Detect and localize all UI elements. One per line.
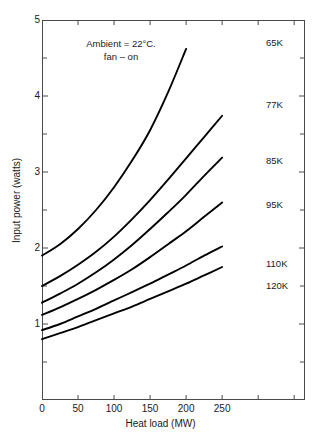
x-tick-label-200: 200 [178,403,195,414]
series-label-77K: 77K [266,100,283,110]
series-label-85K: 85K [266,156,283,166]
curve-65K [42,49,186,256]
x-tick-label-50: 50 [72,403,83,414]
curve-85K [42,158,222,303]
x-tick-label-100: 100 [106,403,123,414]
y-tick-label-4: 4 [10,91,40,101]
chart-canvas [0,0,321,439]
x-tick-label-150: 150 [142,403,159,414]
annotation-line-ambient: Ambient = 22°C. [62,37,180,50]
series-curves [42,49,222,339]
series-label-95K: 95K [266,200,283,210]
y-tick-label-5: 5 [10,15,40,25]
x-axis-title: Heat load (MW) [0,418,321,429]
y-tick-label-1: 1 [10,319,40,329]
chart-figure: 12345 050100150200250 Heat load (MW) Inp… [0,0,321,439]
axis-ticks [42,20,305,400]
series-label-120K: 120K [266,281,288,291]
x-tick-label-0: 0 [39,403,45,414]
series-label-110K: 110K [266,259,287,269]
y-axis-title: Input power (watts) [11,141,22,261]
annotation-line-fan: fan – on [62,50,180,63]
chart-annotation: Ambient = 22°C. fan – on [62,37,180,63]
series-label-65K: 65K [266,38,283,48]
x-axis-tick-labels: 050100150200250 [0,403,321,419]
x-tick-label-250: 250 [214,403,231,414]
